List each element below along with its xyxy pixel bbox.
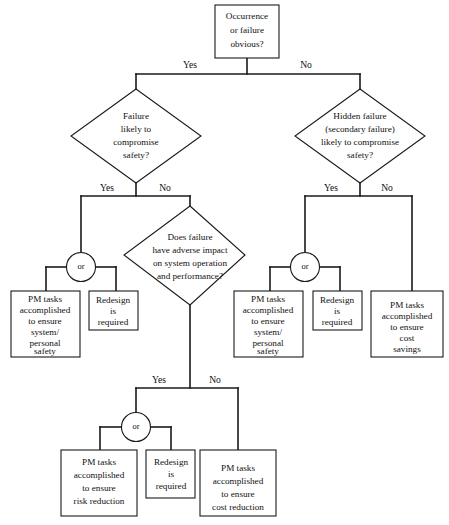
right-pm-safety-line-1: PM tasks: [251, 294, 285, 304]
diamond-right-line-2: (secondary failure): [325, 124, 395, 134]
node-bottom-redesign[interactable]: Redesign is required: [146, 450, 195, 498]
flowchart-canvas: Occurrence or failure obvious? Yes No Fa…: [0, 0, 449, 525]
left-pm-safety-line-1: PM tasks: [28, 294, 62, 304]
start-line-1: Occurrence: [226, 11, 268, 21]
right-pm-cost-savings-line-5: savings: [393, 344, 421, 354]
diamond-left-line-3: compromise: [113, 137, 158, 147]
flowchart-svg: Occurrence or failure obvious? Yes No Fa…: [0, 0, 449, 525]
right-pm-cost-savings-line-4: cost: [400, 333, 415, 343]
left-pm-safety-line-6: safety: [34, 346, 56, 356]
node-right-redesign[interactable]: Redesign is required: [313, 291, 362, 330]
bottom-pm-cost-line-2: accomplished: [213, 476, 264, 486]
right-pm-safety-line-4: system/: [254, 327, 283, 337]
bottom-pm-cost-line-4: cost reduction: [212, 502, 264, 512]
diamond-left-line-4: safety?: [123, 150, 149, 160]
branch-label-start-no: No: [300, 59, 312, 70]
start-line-2: or failure: [230, 25, 264, 35]
diamond-middle-shape: [124, 206, 245, 305]
right-pm-safety-line-3: to ensure: [251, 316, 284, 326]
node-diamond-left[interactable]: Failure likely to compromise safety?: [71, 89, 201, 183]
branch-label-left-yes: Yes: [100, 182, 114, 193]
left-pm-safety-line-3: to ensure: [28, 316, 61, 326]
left-redesign-line-2: is: [110, 306, 117, 316]
right-pm-cost-savings-line-2: accomplished: [382, 311, 433, 321]
or-gate-bottom-label: or: [133, 422, 140, 431]
diamond-middle-line-3: on system operation: [153, 258, 227, 268]
start-line-3: obvious?: [230, 39, 263, 49]
bottom-pm-cost-line-3: to ensure: [221, 489, 254, 499]
right-redesign-line-3: required: [322, 317, 353, 327]
node-right-pm-safety[interactable]: PM tasks accomplished to ensure system/ …: [234, 291, 303, 357]
node-bottom-pm-cost[interactable]: PM tasks accomplished to ensure cost red…: [200, 450, 276, 516]
bottom-redesign-line-1: Redesign: [154, 457, 189, 467]
node-start[interactable]: Occurrence or failure obvious?: [215, 5, 279, 58]
diamond-right-line-3: likely to compromise: [321, 137, 399, 147]
or-gate-right[interactable]: or: [291, 253, 320, 282]
bottom-redesign-line-3: required: [156, 481, 187, 491]
bottom-pm-risk-line-2: accomplished: [74, 470, 125, 480]
diamond-left-shape: [71, 89, 201, 183]
branch-label-middle-no: No: [209, 374, 221, 385]
branch-label-middle-yes: Yes: [152, 374, 166, 385]
branch-label-left-no: No: [159, 182, 171, 193]
right-pm-cost-savings-line-3: to ensure: [390, 322, 423, 332]
right-pm-cost-savings-line-1: PM tasks: [390, 300, 424, 310]
diamond-right-shape: [295, 89, 425, 183]
branch-label-start-yes: Yes: [183, 59, 197, 70]
bottom-pm-risk-line-4: risk reduction: [74, 496, 125, 506]
right-redesign-line-2: is: [334, 306, 341, 316]
diamond-right-line-4: safety?: [347, 150, 373, 160]
bottom-pm-cost-line-1: PM tasks: [221, 463, 255, 473]
node-diamond-right[interactable]: Hidden failure (secondary failure) likel…: [295, 89, 425, 183]
bottom-pm-risk-line-1: PM tasks: [82, 457, 116, 467]
diamond-middle-line-1: Does failure: [167, 232, 212, 242]
left-pm-safety-line-4: system/: [31, 327, 60, 337]
diamond-middle-line-2: have adverse impact: [153, 245, 228, 255]
right-pm-safety-line-6: safety: [257, 346, 279, 356]
node-diamond-middle[interactable]: Does failure have adverse impact on syst…: [124, 206, 245, 305]
bottom-redesign-line-2: is: [168, 469, 175, 479]
left-redesign-line-3: required: [98, 317, 129, 327]
left-redesign-line-1: Redesign: [96, 295, 131, 305]
or-gate-right-label: or: [302, 262, 309, 271]
right-redesign-line-1: Redesign: [320, 295, 355, 305]
bottom-pm-risk-line-3: to ensure: [82, 483, 115, 493]
node-right-pm-cost-savings[interactable]: PM tasks accomplished to ensure cost sav…: [371, 291, 443, 357]
diamond-middle-line-4: and performance?: [157, 271, 223, 281]
diamond-left-line-2: likely to: [121, 124, 152, 134]
branch-label-right-yes: Yes: [324, 182, 338, 193]
or-gate-bottom[interactable]: or: [122, 413, 151, 442]
left-pm-safety-line-2: accomplished: [20, 305, 71, 315]
right-pm-safety-line-2: accomplished: [243, 305, 294, 315]
or-gate-left[interactable]: or: [67, 253, 96, 282]
node-bottom-pm-risk[interactable]: PM tasks accomplished to ensure risk red…: [61, 450, 137, 516]
node-left-redesign[interactable]: Redesign is required: [89, 291, 138, 330]
node-left-pm-safety[interactable]: PM tasks accomplished to ensure system/ …: [11, 291, 80, 357]
branch-label-right-no: No: [381, 182, 393, 193]
diamond-left-line-1: Failure: [123, 111, 149, 121]
diamond-right-line-1: Hidden failure: [333, 111, 386, 121]
or-gate-left-label: or: [78, 262, 85, 271]
